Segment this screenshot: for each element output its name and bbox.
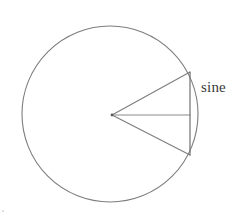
figure-canvas: sine <box>0 0 236 223</box>
circle-center-point <box>111 114 114 117</box>
corner-artifact-mark <box>2 210 4 212</box>
sine-circle-diagram: sine <box>0 0 236 223</box>
sine-label: sine <box>201 79 226 95</box>
